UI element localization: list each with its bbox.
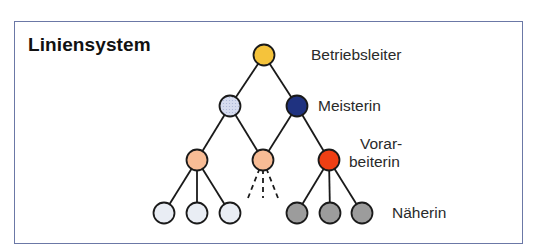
level-label-vorarbeiterin-line1: Vorar- [360,135,402,153]
level-label-meisterin: Meisterin [318,97,381,115]
tree-edges [164,55,362,213]
level-label-naeherin: Näherin [392,204,446,222]
node-naeherin-5 [320,203,341,224]
node-naeherin-6 [352,203,373,224]
node-naeherin-3 [220,203,241,224]
org-tree [0,0,533,252]
node-betriebsleiter [254,45,275,66]
node-meisterin-2 [287,96,308,117]
node-naeherin-4 [287,203,308,224]
node-vorarbeiterin-2 [253,150,274,171]
node-naeherin-2 [187,203,208,224]
node-vorarbeiterin-1 [187,150,208,171]
level-label-vorarbeiterin-line2: beiterin [349,153,400,171]
node-vorarbeiterin-3 [319,150,340,171]
node-meisterin-1 [220,96,241,117]
node-naeherin-1 [154,203,175,224]
level-label-betriebsleiter: Betriebsleiter [311,46,401,64]
